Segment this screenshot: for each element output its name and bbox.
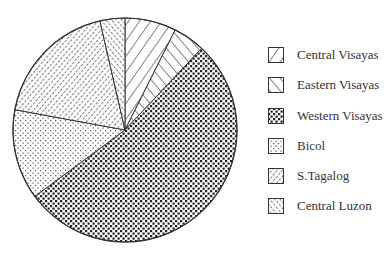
legend-label: Bicol — [297, 138, 325, 154]
legend-swatch-diag-wide-down-icon — [268, 77, 284, 93]
legend-item-eastern-visayas: Eastern Visayas — [268, 77, 389, 93]
legend-item-s-tagalog: S.Tagalog — [268, 168, 389, 184]
legend-label: Central Visayas — [297, 47, 379, 63]
legend-label: Eastern Visayas — [297, 77, 379, 93]
legend-swatch-light-dots-icon — [268, 138, 284, 154]
legend-label: Western Visayas — [297, 108, 383, 124]
pie-slices — [13, 18, 237, 242]
legend-item-western-visayas: Western Visayas — [268, 108, 389, 124]
legend-label: S.Tagalog — [297, 168, 349, 184]
legend-item-central-visayas: Central Visayas — [268, 47, 389, 63]
legend-swatch-dense-dots-icon — [268, 108, 284, 124]
legend-swatch-diag-fine-down-icon — [268, 198, 284, 214]
pie-chart — [0, 0, 389, 256]
legend-swatch-diag-fine-up-icon — [268, 168, 284, 184]
legend-item-bicol: Bicol — [268, 138, 389, 154]
legend-item-central-luzon: Central Luzon — [268, 198, 389, 214]
legend-label: Central Luzon — [297, 198, 372, 214]
legend-swatch-diag-wide-up-icon — [268, 47, 284, 63]
